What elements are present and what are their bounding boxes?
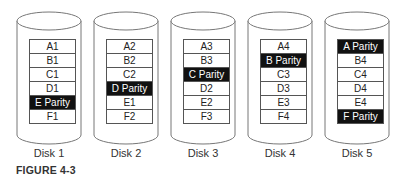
block-stack: A2B2C2D ParityE1F2 xyxy=(106,39,153,124)
disk-label: Disk 4 xyxy=(247,147,313,159)
parity-block: B Parity xyxy=(261,53,306,67)
data-block: B4 xyxy=(338,53,383,67)
disk-3: A3B3C ParityD2E2F3 xyxy=(170,11,236,145)
data-block: E1 xyxy=(107,95,152,109)
parity-block: F Parity xyxy=(338,109,383,123)
disk-1: A1B1C1D1E ParityF1 xyxy=(16,11,82,145)
data-block: E2 xyxy=(184,95,229,109)
data-block: D1 xyxy=(30,81,75,95)
disk-label: Disk 2 xyxy=(93,147,159,159)
parity-block: E Parity xyxy=(30,95,75,109)
data-block: F2 xyxy=(107,109,152,123)
data-block: A4 xyxy=(261,40,306,53)
data-block: B2 xyxy=(107,53,152,67)
data-block: C3 xyxy=(261,67,306,81)
figure-caption: FIGURE 4-3 xyxy=(16,164,76,176)
block-stack: A3B3C ParityD2E2F3 xyxy=(183,39,230,124)
disk-label: Disk 1 xyxy=(16,147,82,159)
data-block: F3 xyxy=(184,109,229,123)
disk-4: A4B ParityC3D3E3F4 xyxy=(247,11,313,145)
parity-block: A Parity xyxy=(338,40,383,53)
data-block: F1 xyxy=(30,109,75,123)
data-block: C1 xyxy=(30,67,75,81)
data-block: D3 xyxy=(261,81,306,95)
data-block: C4 xyxy=(338,67,383,81)
parity-block: D Parity xyxy=(107,81,152,95)
data-block: F4 xyxy=(261,109,306,123)
block-stack: A4B ParityC3D3E3F4 xyxy=(260,39,307,124)
data-block: A2 xyxy=(107,40,152,53)
data-block: E4 xyxy=(338,95,383,109)
parity-block: C Parity xyxy=(184,67,229,81)
data-block: B3 xyxy=(184,53,229,67)
data-block: C2 xyxy=(107,67,152,81)
disk-label: Disk 5 xyxy=(324,147,390,159)
data-block: A1 xyxy=(30,40,75,53)
data-block: D2 xyxy=(184,81,229,95)
disk-5: A ParityB4C4D4E4F Parity xyxy=(324,11,390,145)
data-block: A3 xyxy=(184,40,229,53)
data-block: B1 xyxy=(30,53,75,67)
block-stack: A1B1C1D1E ParityF1 xyxy=(29,39,76,124)
disk-2: A2B2C2D ParityE1F2 xyxy=(93,11,159,145)
disk-label: Disk 3 xyxy=(170,147,236,159)
data-block: D4 xyxy=(338,81,383,95)
data-block: E3 xyxy=(261,95,306,109)
block-stack: A ParityB4C4D4E4F Parity xyxy=(337,39,384,124)
